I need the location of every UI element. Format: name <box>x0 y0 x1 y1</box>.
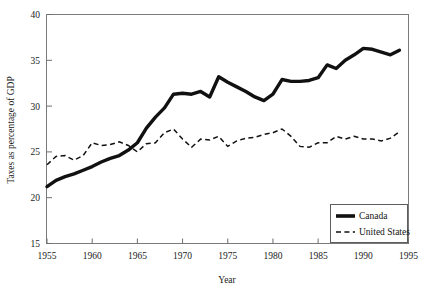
x-axis-title: Year <box>218 275 236 285</box>
y-tick-label: 35 <box>31 56 41 66</box>
y-tick-label: 30 <box>31 102 41 112</box>
series-layer <box>47 48 399 186</box>
line-chart: 152025303540 195519601965197019751980198… <box>0 0 426 304</box>
legend-label-united-states: United States <box>359 227 410 237</box>
x-tick-label: 1955 <box>38 251 57 261</box>
x-tick-label: 1980 <box>263 251 282 261</box>
x-tick-label: 1990 <box>354 251 373 261</box>
x-tick-label: 1960 <box>83 251 102 261</box>
y-tick-label: 20 <box>31 193 41 203</box>
chart-legend: Canada United States <box>331 205 411 243</box>
y-axis: 152025303540 <box>31 10 53 249</box>
x-tick-label: 1985 <box>309 251 328 261</box>
x-tick-label: 1965 <box>128 251 147 261</box>
y-tick-label: 25 <box>31 147 41 157</box>
x-tick-label: 1995 <box>399 251 418 261</box>
y-axis-title: Taxes as percentage of GDP <box>6 76 16 184</box>
y-tick-label: 40 <box>31 10 41 20</box>
series-line-canada <box>47 48 399 186</box>
series-line-united-states <box>47 129 399 165</box>
y-tick-label: 15 <box>31 239 41 249</box>
chart-figure: 152025303540 195519601965197019751980198… <box>0 0 426 304</box>
x-tick-label: 1970 <box>173 251 192 261</box>
legend-label-canada: Canada <box>359 211 388 221</box>
x-tick-label: 1975 <box>218 251 237 261</box>
